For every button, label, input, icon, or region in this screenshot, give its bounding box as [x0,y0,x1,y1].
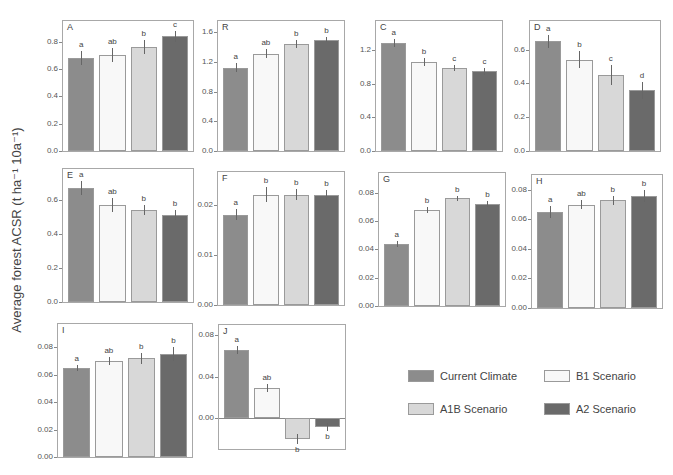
significance-letter: b [315,432,339,441]
y-tick-mark [215,335,218,336]
error-bar [548,35,549,49]
y-tick-mark [372,50,375,51]
y-tick-mark [528,190,531,191]
y-tick-label: 0.0 [183,146,213,155]
error-bar [457,196,458,202]
y-tick-mark [214,121,217,122]
error-bar [424,58,425,66]
panel-letter: G [383,174,390,184]
y-tick-label: 0.02 [23,425,53,434]
error-bar [173,347,174,361]
significance-letter: b [567,40,591,49]
error-bar [144,40,145,54]
error-bar [550,206,551,218]
significance-letter: a [382,28,406,37]
y-tick-mark [214,92,217,93]
y-tick-label: 0.06 [344,216,374,225]
error-bar [175,210,176,220]
y-tick-mark [528,219,531,220]
y-tick-mark [214,255,217,256]
y-axis-label: Average forest ACSR (t ha⁻¹ 10a⁻¹) [9,127,24,332]
y-tick-label: 0.4 [28,91,58,100]
bar-b1-scenario [568,205,594,308]
error-bar [611,65,612,85]
error-bar [326,37,327,41]
y-tick-mark [372,151,375,152]
panel-g: Gabbb [378,172,506,307]
y-tick-label: 0.04 [344,244,374,253]
error-bar [236,209,237,220]
bar-a2-scenario [314,40,339,151]
y-tick-mark [375,306,378,307]
bar-a1b-scenario [442,68,467,151]
y-tick-mark [528,249,531,250]
y-tick-mark [54,375,57,376]
significance-letter: ab [97,346,121,355]
error-bar [642,82,643,99]
y-tick-mark [59,234,62,235]
y-tick-mark [59,124,62,125]
legend-item-current-climate: Current Climate [408,370,517,382]
y-tick-mark [214,305,217,306]
bar-a2-scenario [160,354,187,457]
y-tick-label: 0.08 [23,342,53,351]
significance-letter: b [132,194,156,203]
y-tick-label: 0.6 [28,64,58,73]
y-tick-mark [214,151,217,152]
significance-letter: b [161,336,185,345]
y-tick-label: 0.00 [184,413,214,422]
error-bar [484,68,485,75]
y-tick-mark [375,193,378,194]
significance-letter: b [284,29,308,38]
y-tick-mark [372,84,375,85]
y-tick-mark [214,205,217,206]
significance-letter: b [254,176,278,185]
panel-letter: I [62,325,65,335]
y-tick-label: 0.04 [184,372,214,381]
bar-a1b-scenario [445,198,470,306]
panel-j: Jaabbb [218,324,346,450]
y-tick-mark [59,302,62,303]
significance-letter: b [412,47,436,56]
panel-letter: R [222,22,229,32]
error-bar [266,49,267,58]
bar-current-climate [384,244,409,306]
legend-swatch-current-climate [408,370,434,382]
significance-letter: b [314,179,338,188]
significance-letter: d [630,71,654,80]
bar-a1b-scenario [128,358,155,457]
significance-letter: b [129,342,153,351]
legend-swatch-a2 [544,403,570,415]
y-tick-label: 0.6 [28,195,58,204]
bar-b1-scenario [99,55,125,151]
y-tick-mark [59,268,62,269]
y-tick-label: 0.2 [28,263,58,272]
error-bar [112,198,113,212]
bar-current-climate [535,41,561,151]
y-tick-label: 0.2 [495,112,525,121]
y-tick-label: 0.4 [28,229,58,238]
panel-h: Haabbb [531,174,663,309]
bar-current-climate [224,350,249,418]
panel-c: Cabcc [375,20,503,152]
y-tick-mark [375,221,378,222]
y-tick-label: 0.4 [183,116,213,125]
bar-b1-scenario [414,210,439,306]
y-tick-mark [372,117,375,118]
significance-letter: b [475,190,499,199]
y-tick-label: 0.8 [341,79,371,88]
bar-a1b-scenario [600,200,626,308]
error-bar [427,207,428,213]
error-bar [236,63,237,72]
bar-current-climate [223,215,248,305]
significance-letter: a [538,195,562,204]
error-bar [581,200,582,209]
error-bar [326,190,327,200]
legend-swatch-b1 [544,370,570,382]
significance-letter: ab [255,373,279,382]
significance-letter: b [601,185,625,194]
error-bar [397,241,398,247]
bar-b1-scenario [253,195,278,305]
bar-a2-scenario [472,71,497,151]
significance-letter: b [445,185,469,194]
